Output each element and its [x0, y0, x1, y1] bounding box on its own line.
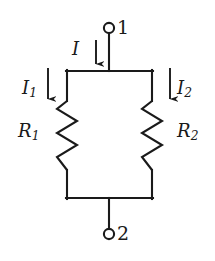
- resistor-r2-symbol: [142, 101, 162, 170]
- label-terminal-1: 1: [117, 18, 129, 37]
- parallel-resistor-circuit-figure: I I1 I2 R1 R2 1 2: [0, 0, 215, 261]
- resistor-r1-symbol: [57, 101, 77, 170]
- label-current-total: I: [72, 40, 79, 58]
- label-resistor-r1: R1: [18, 122, 40, 143]
- terminal-2-circle: [104, 229, 114, 239]
- terminal-1-circle: [104, 23, 114, 33]
- label-current-branch1: I1: [22, 79, 37, 100]
- label-current-branch2: I2: [177, 79, 192, 100]
- label-resistor-r2: R2: [177, 122, 199, 143]
- label-terminal-2: 2: [117, 224, 129, 243]
